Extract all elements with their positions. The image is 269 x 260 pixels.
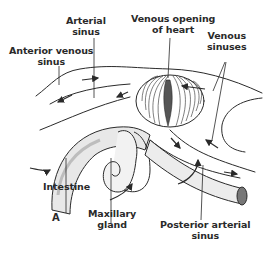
- label-line: gland: [88, 219, 136, 230]
- label-maxillary-gland: Maxillary gland: [88, 208, 136, 230]
- anatomy-diagram: Arterial sinus Venous opening of heart A…: [0, 0, 269, 260]
- label-line: Maxillary: [88, 208, 136, 219]
- label-anterior-venous-sinus: Anterior venous sinus: [9, 45, 93, 67]
- label-arterial-sinus: Arterial sinus: [66, 15, 106, 37]
- label-posterior-arterial-sinus: Posterior arterial sinus: [160, 219, 250, 241]
- label-venous-opening: Venous opening of heart: [131, 13, 215, 35]
- panel-letter: A: [52, 212, 60, 223]
- label-line: sinus: [160, 230, 250, 241]
- body-wall-outline: [36, 67, 262, 96]
- label-line: Intestine: [43, 181, 90, 192]
- venous-opening: [164, 80, 172, 126]
- label-line: Venous: [207, 30, 247, 41]
- label-line: sinus: [9, 56, 93, 67]
- label-venous-sinuses: Venous sinuses: [207, 30, 247, 52]
- label-line: Posterior arterial: [160, 219, 250, 230]
- label-line: sinuses: [207, 41, 247, 52]
- label-line: sinus: [66, 26, 106, 37]
- venous-sinus-curve: [222, 98, 262, 152]
- label-line: Anterior venous: [9, 45, 93, 56]
- anterior-sinus-boundary: [50, 84, 130, 104]
- label-line: of heart: [131, 24, 215, 35]
- label-line: Arterial: [66, 15, 106, 26]
- label-intestine: Intestine: [43, 181, 90, 192]
- label-line: Venous opening: [131, 13, 215, 24]
